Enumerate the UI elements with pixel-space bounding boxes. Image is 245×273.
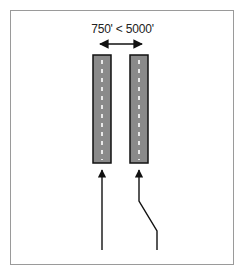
- runway-diagram: [0, 0, 245, 273]
- left-runway: [93, 55, 111, 163]
- offset-approach-arrow-icon: [139, 170, 157, 250]
- right-runway: [130, 55, 148, 163]
